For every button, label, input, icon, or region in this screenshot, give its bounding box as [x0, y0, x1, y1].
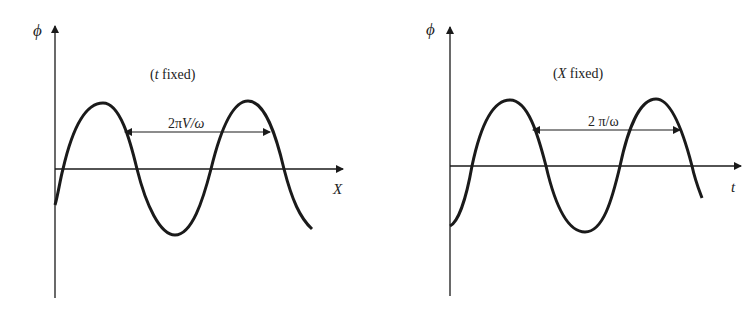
- left-x-axis-label: X: [332, 181, 343, 197]
- left-period-label: 2πV/ω: [168, 116, 205, 131]
- right-period-label: 2 π/ω: [588, 114, 619, 129]
- right-condition-label: (X fixed): [553, 66, 604, 82]
- left-period-suffix: /ω: [190, 116, 205, 131]
- right-x-axis-label: t: [731, 179, 736, 195]
- right-y-axis-label: ϕ: [426, 20, 435, 39]
- wave-diagram: ϕ X (t fixed) 2πV/ω ϕ t (X fixed) 2 π/ω: [0, 0, 755, 320]
- left-condition-label: (t fixed): [150, 67, 196, 83]
- right-condition-word: fixed: [566, 66, 598, 81]
- left-condition-word: fixed: [159, 67, 191, 82]
- left-period-prefix: 2π: [168, 116, 182, 131]
- right-panel: ϕ t (X fixed) 2 π/ω: [426, 20, 741, 296]
- left-panel: ϕ X (t fixed) 2πV/ω: [33, 21, 343, 298]
- left-y-axis-label: ϕ: [33, 21, 42, 40]
- right-condition-var: X: [557, 66, 567, 81]
- diagram-svg: ϕ X (t fixed) 2πV/ω ϕ t (X fixed) 2 π/ω: [0, 0, 755, 320]
